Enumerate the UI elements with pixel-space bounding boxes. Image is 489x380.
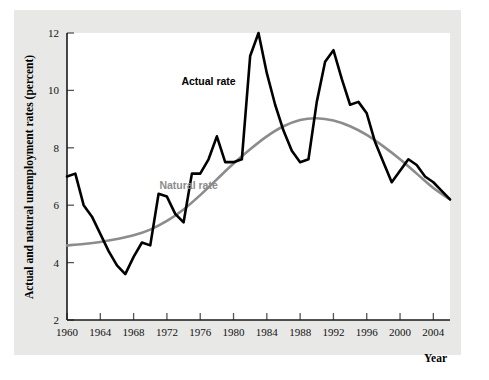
x-tick-label: 2004 (422, 326, 445, 338)
x-tick-label: 1996 (356, 326, 379, 338)
figure-container: 24681012 1960196419681972197619801984198… (0, 0, 489, 380)
x-tick-label: 2000 (389, 326, 412, 338)
y-tick-label: 10 (48, 84, 60, 96)
x-tick-label: 1964 (89, 326, 112, 338)
x-tick-label: 1988 (289, 326, 312, 338)
y-tick-label: 6 (54, 199, 60, 211)
x-tick-label: 1960 (56, 326, 79, 338)
y-axis-tick-labels: 24681012 (48, 27, 60, 326)
y-tick-label: 2 (54, 314, 60, 326)
x-tick-label: 1992 (322, 326, 344, 338)
x-tick-label: 1972 (156, 326, 178, 338)
x-tick-label: 1968 (123, 326, 146, 338)
series-label-natural-rate: Natural rate (159, 179, 218, 191)
x-axis-title: Year (424, 352, 447, 364)
plot-area-background (67, 33, 450, 320)
y-tick-label: 4 (54, 257, 60, 269)
y-tick-label: 8 (54, 142, 60, 154)
x-tick-label: 1984 (256, 326, 279, 338)
y-axis-title: Actual and natural unemployment rates (p… (23, 55, 36, 299)
x-tick-label: 1976 (189, 326, 212, 338)
unemployment-rates-line-chart: 24681012 1960196419681972197619801984198… (0, 0, 489, 380)
series-label-actual-rate: Actual rate (181, 75, 235, 87)
x-axis-tick-labels: 1960196419681972197619801984198819921996… (56, 326, 445, 338)
x-tick-label: 1980 (223, 326, 246, 338)
y-tick-label: 12 (48, 27, 59, 39)
